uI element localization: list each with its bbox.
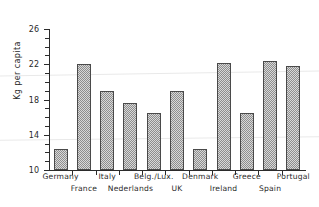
bar xyxy=(286,66,300,170)
x-axis-line xyxy=(49,170,306,171)
bar xyxy=(54,149,68,170)
x-axis-label: France xyxy=(71,184,97,193)
x-axis-label: Belg./Lux. xyxy=(134,172,174,181)
x-axis-label: Greece xyxy=(233,172,261,181)
plot-area: 1014182226 xyxy=(49,29,305,170)
x-axis-label: Portugal xyxy=(277,172,310,181)
bar xyxy=(147,113,161,170)
y-tick-label: 18 xyxy=(29,95,39,104)
bar xyxy=(170,91,184,170)
y-tick-label: 26 xyxy=(29,25,39,34)
bar xyxy=(217,63,231,170)
bar xyxy=(263,61,277,170)
y-tick-label: 22 xyxy=(29,60,39,69)
bar-chart: Kg per capita 1014182226 GermanyFranceIt… xyxy=(0,0,319,207)
x-axis-label: Ireland xyxy=(210,184,238,193)
y-tick-label: 14 xyxy=(29,130,39,139)
bar xyxy=(100,91,114,170)
bar xyxy=(240,113,254,170)
y-axis-title: Kg per capita xyxy=(13,21,22,121)
x-axis-label: Denmark xyxy=(182,172,218,181)
x-axis-label: UK xyxy=(172,184,183,193)
bar xyxy=(193,149,207,170)
bar xyxy=(77,64,91,170)
x-axis-labels: GermanyFranceItalyNederlandsBelg./Lux.UK… xyxy=(49,172,305,204)
bars-layer xyxy=(49,29,305,170)
x-axis-label: Spain xyxy=(259,184,281,193)
y-tick-label: 10 xyxy=(29,166,39,175)
x-axis-label: Germany xyxy=(42,172,78,181)
x-axis-label: Nederlands xyxy=(108,184,153,193)
bar xyxy=(123,103,137,170)
y-tick-major xyxy=(44,170,50,171)
x-axis-label: Italy xyxy=(98,172,115,181)
